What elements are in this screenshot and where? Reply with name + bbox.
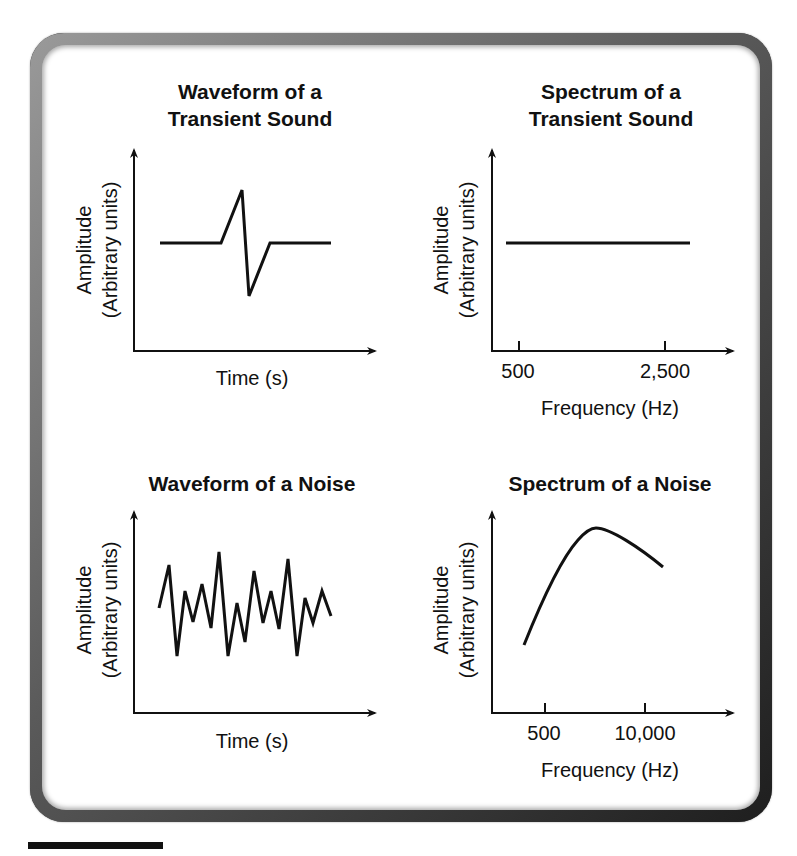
panel-1-transient-waveform-line [160,190,331,296]
panel-4-axes [491,512,733,713]
panel-4-noise-spectrum-curve [524,528,663,645]
panel-2-axes [491,150,733,351]
panel-3-axes [133,512,375,713]
panel-3-noise-waveform-line [159,552,331,656]
plots-canvas [0,0,797,856]
panel-1-axes [133,150,375,351]
